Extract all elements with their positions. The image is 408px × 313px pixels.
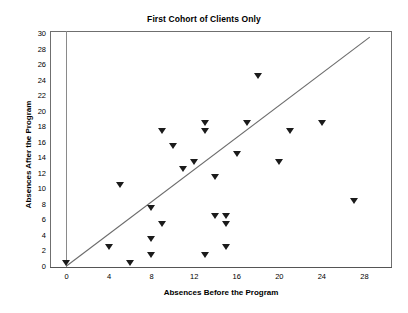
data-point bbox=[254, 73, 262, 79]
data-point bbox=[243, 120, 251, 126]
x-tick-label: 28 bbox=[352, 272, 376, 281]
data-point bbox=[222, 244, 230, 250]
y-tick-label: 28 bbox=[28, 44, 46, 53]
data-point bbox=[62, 260, 70, 266]
x-tick-label: 20 bbox=[267, 272, 291, 281]
data-point bbox=[201, 128, 209, 134]
y-tick-label: 30 bbox=[28, 29, 46, 38]
data-point bbox=[147, 205, 155, 211]
data-point bbox=[201, 252, 209, 258]
data-point bbox=[158, 128, 166, 134]
y-tick-label: 2 bbox=[28, 246, 46, 255]
x-axis-line bbox=[50, 267, 392, 268]
x-tick-label: 4 bbox=[97, 272, 121, 281]
data-point bbox=[275, 159, 283, 165]
x-tick-label: 16 bbox=[225, 272, 249, 281]
data-point bbox=[126, 260, 134, 266]
x-axis-title: Absences Before the Program bbox=[50, 288, 392, 297]
x-tick-label: 24 bbox=[310, 272, 334, 281]
data-point bbox=[147, 252, 155, 258]
data-point bbox=[233, 151, 241, 157]
y-axis-title: Absences After the Program bbox=[24, 65, 33, 245]
data-point bbox=[211, 174, 219, 180]
x-tick-label: 0 bbox=[55, 272, 79, 281]
y-tick-label: 0 bbox=[28, 262, 46, 271]
y-axis-line bbox=[66, 31, 67, 268]
data-point bbox=[350, 198, 358, 204]
data-point bbox=[105, 244, 113, 250]
data-point bbox=[147, 236, 155, 242]
data-point bbox=[318, 120, 326, 126]
data-point bbox=[222, 213, 230, 219]
scatter-chart-figure: First Cohort of Clients Only 02468101214… bbox=[0, 0, 408, 313]
data-point bbox=[169, 143, 177, 149]
data-point bbox=[211, 213, 219, 219]
x-tick-label: 8 bbox=[140, 272, 164, 281]
data-point bbox=[286, 128, 294, 134]
data-point bbox=[179, 166, 187, 172]
data-point bbox=[201, 120, 209, 126]
chart-title: First Cohort of Clients Only bbox=[0, 14, 408, 24]
data-point bbox=[158, 221, 166, 227]
data-point bbox=[222, 221, 230, 227]
data-point bbox=[116, 182, 124, 188]
data-point bbox=[190, 159, 198, 165]
x-tick-label: 12 bbox=[182, 272, 206, 281]
plot-area bbox=[50, 31, 392, 268]
